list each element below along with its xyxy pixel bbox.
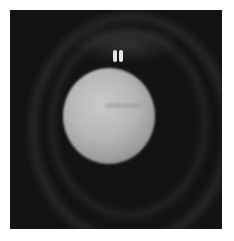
- bright-spot-left: [113, 50, 117, 62]
- sphere-streak: [105, 104, 141, 107]
- bright-spot-right: [119, 50, 123, 62]
- bright-sphere: [63, 68, 155, 164]
- image-frame: [10, 10, 222, 229]
- upper-haze: [70, 24, 180, 64]
